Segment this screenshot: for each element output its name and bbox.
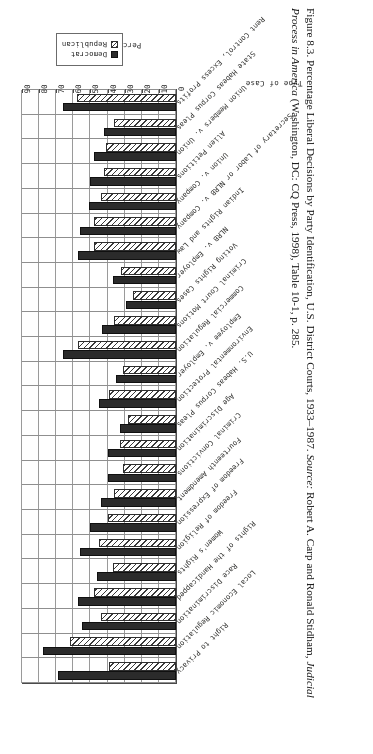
legend-label-republican: Republican [62,40,107,49]
bar-group [22,276,176,285]
bar-group [22,242,176,251]
bar-group [22,366,176,375]
bar-republican [104,168,176,177]
bar-group [22,119,176,128]
bar-group [22,375,176,384]
bar-democrat [90,523,176,532]
bar-democrat [43,647,176,656]
bar-democrat [94,152,176,161]
category-separator [22,262,176,263]
bar-group [22,292,176,301]
bar-group [22,424,176,433]
value-tick-label: 70 [57,76,66,102]
bar-republican [70,637,176,646]
bar-democrat [58,671,176,680]
caption-source-label: Source: [305,454,317,489]
bar-democrat [116,375,176,384]
bar-republican [106,143,176,152]
bar-republican [114,316,176,325]
bar-republican [78,341,176,350]
bar-democrat [97,572,176,581]
bar-group [22,202,176,211]
bar-republican [94,217,176,226]
value-tick-label: 50 [91,76,100,102]
bar-group [22,177,176,186]
category-separator [22,114,176,115]
caption-number: Figure 8.3. [305,8,317,57]
bar-republican [120,440,176,449]
caption-title: Percentage Liberal Decisions by Party Id… [305,60,317,452]
category-axis-title: Type of Case [181,79,367,88]
bar-group [22,390,176,399]
category-separator [22,534,176,535]
category-separator [22,213,176,214]
bar-group [22,415,176,424]
legend-item-democrat: Democrat [62,51,118,60]
bar-group [22,227,176,236]
category-separator [22,608,176,609]
figure-caption: Figure 8.3. Percentage Liberal Decisions… [287,8,318,728]
bar-republican [109,662,176,671]
category-separator [22,583,176,584]
value-tick-label: 30 [126,76,135,102]
bar-group [22,523,176,532]
category-separator [22,361,176,362]
category-separator [22,682,176,683]
bar-group [22,449,176,458]
bar-democrat [80,227,176,236]
category-separator [22,311,176,312]
bar-group [22,563,176,572]
bar-group [22,267,176,276]
bar-republican [99,539,176,548]
bar-republican [123,464,176,473]
bar-democrat [113,276,176,285]
bar-republican [101,193,176,202]
value-tick-label: 40 [109,76,118,102]
category-separator [22,558,176,559]
bar-democrat [108,449,176,458]
bar-group [22,514,176,523]
bar-group [22,548,176,557]
bar-group [22,440,176,449]
value-tick-label: 80 [40,76,49,102]
bar-group [22,572,176,581]
bar-democrat [63,103,176,112]
bar-group [22,217,176,226]
category-axis-labels: Right to PrivacyLocal Economic Regulatio… [177,84,373,684]
category-separator [22,509,176,510]
bar-republican [94,588,176,597]
bar-group [22,128,176,137]
bar-group [22,539,176,548]
legend-item-republican: Republican [62,40,118,49]
bar-republican [114,489,176,498]
category-separator [22,484,176,485]
bar-group [22,251,176,260]
bar-group [22,637,176,646]
bar-group [22,316,176,325]
plot-area [22,89,177,684]
category-separator [22,336,176,337]
category-separator [22,287,176,288]
category-separator [22,435,176,436]
bar-group [22,399,176,408]
figure-root: 0102030405060708090 Percentage Liberal R… [0,0,373,754]
bar-republican [108,514,176,523]
bar-group [22,597,176,606]
bar-republican [101,613,176,622]
bar-group [22,613,176,622]
bar-group [22,301,176,310]
bar-group [22,464,176,473]
caption-source-publisher: (Washington, DC: CQ Press, 1998), Table … [290,99,302,349]
value-tick-label: 60 [74,76,83,102]
bar-republican [121,267,176,276]
bar-group [22,647,176,656]
bar-democrat [89,202,176,211]
bar-group [22,168,176,177]
caption-source-authors: Robert A. Carp and Ronald Stidham, [305,492,317,659]
category-separator [22,163,176,164]
legend-label-democrat: Democrat [71,51,107,60]
bar-group [22,325,176,334]
bar-democrat [108,474,176,483]
category-separator [22,460,176,461]
category-separator [22,657,176,658]
